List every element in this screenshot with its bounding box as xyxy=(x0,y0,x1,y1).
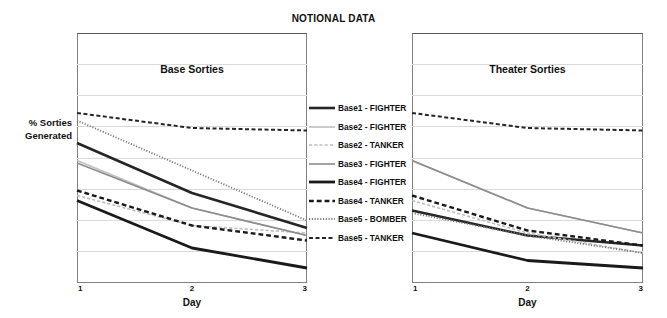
y-axis-label-line1: % Sorties xyxy=(4,116,72,129)
legend-swatch-icon xyxy=(309,121,335,133)
x-tick-label: 1 xyxy=(78,284,82,293)
legend-label: Base1 - FIGHTER xyxy=(338,103,406,113)
legend-swatch-icon xyxy=(309,195,335,207)
figure-title: NOTIONAL DATA xyxy=(0,13,667,24)
legend-item[interactable]: Base4 - FIGHTER xyxy=(309,173,413,192)
x-axis-label-theater: Day xyxy=(412,297,643,308)
legend-swatch-icon xyxy=(309,158,335,170)
legend-item[interactable]: Base1 - FIGHTER xyxy=(309,99,413,118)
x-tick-label: 2 xyxy=(525,284,529,293)
series-line xyxy=(412,113,643,131)
legend-item[interactable]: Base5 - TANKER xyxy=(309,229,413,248)
series-line xyxy=(412,233,643,268)
legend-label: Base2 - TANKER xyxy=(338,140,404,150)
x-tick-label: 3 xyxy=(303,284,307,293)
legend-label: Base5 - TANKER xyxy=(338,233,404,243)
x-tick-label: 2 xyxy=(190,284,194,293)
series-line xyxy=(77,201,307,269)
panel-theater-sorties: Theater Sorties xyxy=(412,33,643,283)
legend-item[interactable]: Base2 - FIGHTER xyxy=(309,118,413,137)
legend-label: Base5 - BOMBER xyxy=(338,214,407,224)
legend-item[interactable]: Base3 - FIGHTER xyxy=(309,155,413,174)
legend-swatch-icon xyxy=(309,102,335,114)
series-line xyxy=(77,121,307,221)
x-tick-label: 3 xyxy=(639,284,643,293)
legend-label: Base2 - FIGHTER xyxy=(338,122,406,132)
legend-swatch-icon xyxy=(309,139,335,151)
series-line xyxy=(412,161,643,234)
legend-swatch-icon xyxy=(309,176,335,188)
y-axis-label: % Sorties Generated xyxy=(4,116,72,142)
series-line xyxy=(77,113,307,131)
panel-title-theater: Theater Sorties xyxy=(412,63,643,75)
x-tick-label: 1 xyxy=(413,284,417,293)
legend-label: Base3 - FIGHTER xyxy=(338,159,406,169)
legend-item[interactable]: Base4 - TANKER xyxy=(309,192,413,211)
legend-swatch-icon xyxy=(309,232,335,244)
panel-title-base: Base Sorties xyxy=(77,63,307,75)
legend-item[interactable]: Base2 - TANKER xyxy=(309,136,413,155)
legend-label: Base4 - FIGHTER xyxy=(338,177,406,187)
panel-base-sorties: Base Sorties xyxy=(77,33,307,283)
chart-figure: NOTIONAL DATA % Sorties Generated Base S… xyxy=(0,0,667,318)
x-axis-ticks-base: 123 xyxy=(77,284,307,298)
legend-swatch-icon xyxy=(309,213,335,225)
chart-legend: Base1 - FIGHTERBase2 - FIGHTERBase2 - TA… xyxy=(309,99,413,247)
x-axis-ticks-theater: 123 xyxy=(412,284,643,298)
legend-label: Base4 - TANKER xyxy=(338,196,404,206)
x-axis-label-base: Day xyxy=(77,297,307,308)
series-line xyxy=(412,161,643,234)
legend-item[interactable]: Base5 - BOMBER xyxy=(309,210,413,229)
y-axis-label-line2: Generated xyxy=(4,129,72,142)
